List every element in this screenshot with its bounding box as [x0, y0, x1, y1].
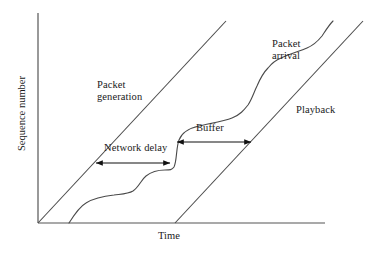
- packet-generation-label: Packet generation: [97, 79, 142, 103]
- packet-arrival-label-line2: arrival: [272, 50, 301, 62]
- y-axis-title: Sequence number: [16, 59, 27, 169]
- buffer-label: Buffer: [196, 122, 224, 134]
- packet-arrival-label: Packet arrival: [272, 38, 301, 62]
- streaming-delay-diagram: Sequence number Time Packet generation P…: [0, 0, 377, 255]
- x-axis-title: Time: [158, 230, 180, 241]
- network-delay-label: Network delay: [104, 142, 167, 154]
- diagram-canvas: [0, 0, 377, 255]
- packet-generation-label-line1: Packet: [97, 79, 142, 91]
- packet-generation-label-line2: generation: [97, 91, 142, 103]
- playback-label: Playback: [296, 104, 335, 116]
- packet-arrival-label-line1: Packet: [272, 38, 301, 50]
